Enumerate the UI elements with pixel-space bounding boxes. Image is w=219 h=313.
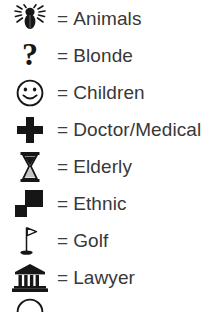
legend-label: =Children <box>57 83 145 102</box>
smiley-face-icon <box>0 74 57 111</box>
question-mark-icon: ? <box>0 37 57 74</box>
legend-label-text: Elderly <box>73 156 132 177</box>
equals-sign: = <box>57 46 68 65</box>
legend-label-text: Animals <box>73 8 141 29</box>
legend-label-text: Blonde <box>73 45 133 66</box>
equals-sign: = <box>57 231 68 250</box>
two-squares-icon <box>0 185 57 222</box>
legend-row: ? =Blonde <box>0 37 219 74</box>
legend-list: =Animals ? =Blonde =Children <box>0 0 219 313</box>
spider-icon <box>0 0 57 37</box>
legend-label-text: Ethnic <box>73 193 126 214</box>
hourglass-icon <box>0 148 57 185</box>
legend-label: =Elderly <box>57 157 132 176</box>
legend-label-text: Children <box>73 82 145 103</box>
equals-sign: = <box>57 194 68 213</box>
equals-sign: = <box>57 268 68 287</box>
legend-label: =Blonde <box>57 46 133 65</box>
courthouse-icon <box>0 259 57 296</box>
legend-row: =Animals <box>0 0 219 37</box>
medical-cross-icon <box>0 111 57 148</box>
legend-row: =Golf <box>0 222 219 259</box>
legend-label-text: Lawyer <box>73 267 135 288</box>
legend-row: =Children <box>0 74 219 111</box>
equals-sign: = <box>57 9 68 28</box>
legend-label: =Lawyer <box>57 268 135 287</box>
golf-flag-icon <box>0 222 57 259</box>
equals-sign: = <box>57 83 68 102</box>
legend-label-text: Golf <box>73 230 108 251</box>
legend-row: =Lawyer <box>0 259 219 296</box>
legend-row: =Elderly <box>0 148 219 185</box>
legend-row: =Ethnic <box>0 185 219 222</box>
legend-label: =Animals <box>57 9 141 28</box>
legend-label: =Golf <box>57 231 108 250</box>
arc-icon <box>0 296 57 312</box>
legend-label-text: Doctor/Medical <box>73 119 201 140</box>
legend-label: =Doctor/Medical <box>57 120 201 139</box>
equals-sign: = <box>57 120 68 139</box>
equals-sign: = <box>57 157 68 176</box>
svg-text:?: ? <box>22 40 38 72</box>
legend-row: =Doctor/Medical <box>0 111 219 148</box>
legend-row-partial <box>0 296 219 312</box>
legend-label: =Ethnic <box>57 194 127 213</box>
